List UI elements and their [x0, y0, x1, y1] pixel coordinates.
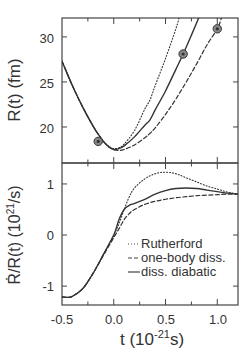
upper-ytick-label-20: 20: [40, 121, 54, 136]
legend-label-rutherford: Rutherford: [141, 236, 202, 251]
upper-panel: R(t) (fm) 30 25 20: [5, 18, 238, 163]
xtick-label-neg0.5: -0.5: [51, 312, 73, 327]
lower-plot-frame: [62, 163, 238, 305]
lower-y-axis-label: Ṙ/R(t) (1021/s): [5, 185, 23, 284]
figure: R(t) (fm) 30 25 20 Ṙ/R(t) (1021/s) 1 0 -…: [0, 0, 251, 364]
upper-ticks: [62, 18, 238, 163]
lower-ylabel-sup: 21: [5, 203, 16, 215]
xtick-label-0.0: 0.0: [105, 312, 123, 327]
lower-ylabel-main: Ṙ/R(t) (10: [5, 214, 23, 284]
upper-y-axis-label: R(t) (fm): [5, 58, 24, 121]
lower-ytick-label-1: 1: [47, 177, 54, 192]
curve-diss-diabatic: [62, 18, 199, 150]
upper-plot-frame: [62, 18, 238, 163]
curve-rutherford: [62, 18, 179, 149]
x-axis-label: t (10-21s): [120, 328, 184, 349]
xlabel-sup: -21: [154, 328, 170, 340]
lower-ytick-label-neg1: -1: [42, 279, 54, 294]
marker-center-dot: [216, 27, 219, 30]
upper-curves: [62, 18, 221, 150]
lower-ylabel-tail: /s): [6, 185, 23, 203]
marker-center-dot: [182, 52, 185, 55]
lower-panel: Ṙ/R(t) (1021/s) 1 0 -1 -0.5 0.0 0.5 1.0 …: [5, 163, 238, 349]
lower-ticks: [62, 163, 238, 305]
xlabel-main: t (10: [120, 330, 154, 349]
marker-center-dot: [97, 140, 100, 143]
xlabel-tail: s): [170, 330, 184, 349]
lower-ytick-label-0: 0: [47, 228, 54, 243]
legend: Rutherford one-body diss. diss. diabatic: [128, 236, 226, 279]
curve-one-body-diss: [62, 18, 221, 150]
xtick-label-0.5: 0.5: [157, 312, 175, 327]
legend-label-one-body: one-body diss.: [141, 250, 226, 265]
upper-ytick-label-25: 25: [40, 76, 54, 91]
upper-markers: [94, 25, 221, 146]
upper-ytick-label-30: 30: [40, 31, 54, 46]
xtick-label-1.0: 1.0: [209, 312, 227, 327]
legend-label-diabatic: diss. diabatic: [141, 264, 217, 279]
